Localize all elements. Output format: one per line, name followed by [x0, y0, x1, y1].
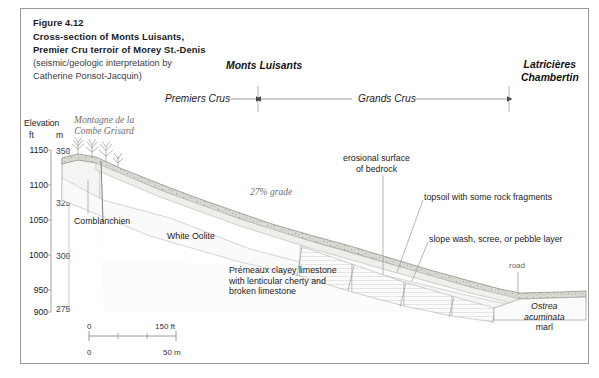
- label-erosional-surface: erosional surface of bedrock: [343, 153, 410, 175]
- ostrea-line-3: marl: [524, 322, 565, 333]
- label-comblanchien: Comblanchien: [74, 216, 130, 227]
- label-road: road: [509, 261, 525, 272]
- premeaux-line-3: broken limestone: [229, 286, 337, 297]
- tree-3: [99, 141, 113, 162]
- tree-1: [72, 137, 84, 154]
- label-ostrea-acuminata-marl: Ostrea acuminata marl: [524, 301, 565, 333]
- erosional-line-2: of bedrock: [343, 164, 410, 175]
- premeaux-line-1: Prémeaux clayey limestone: [229, 265, 337, 276]
- label-slope-wash: slope wash, scree, or pebble layer: [429, 234, 563, 245]
- label-montagne-combe-grisard: Montagne de la Combe Grisard: [74, 114, 134, 136]
- scale-label-m-start: 0: [87, 348, 91, 357]
- tree-2: [86, 139, 98, 157]
- montagne-line-1: Montagne de la: [74, 114, 134, 125]
- ostrea-line-2: acuminata: [524, 312, 565, 323]
- label-premeaux-clayey-limestone: Prémeaux clayey limestone with lenticula…: [229, 265, 337, 297]
- figure-container: Figure 4.12 Cross-section of Monts Luisa…: [0, 0, 599, 378]
- montagne-line-2: Combe Grisard: [74, 125, 134, 136]
- ostrea-line-1: Ostrea: [524, 301, 565, 312]
- label-topsoil: topsoil with some rock fragments: [424, 192, 552, 203]
- leader-topsoil: [397, 200, 423, 272]
- premeaux-line-2: with lenticular cherty and: [229, 276, 337, 287]
- scale-label-m-end: 50 m: [163, 348, 181, 357]
- label-white-oolite: White Oolite: [167, 231, 215, 242]
- scale-label-ft-start: 0: [87, 322, 91, 331]
- scale-label-ft-end: 150 ft: [155, 322, 175, 331]
- tree-4: [113, 153, 123, 167]
- erosional-line-1: erosional surface: [343, 153, 410, 164]
- scale-bar: [89, 331, 176, 341]
- label-grade: 27% grade: [250, 186, 292, 197]
